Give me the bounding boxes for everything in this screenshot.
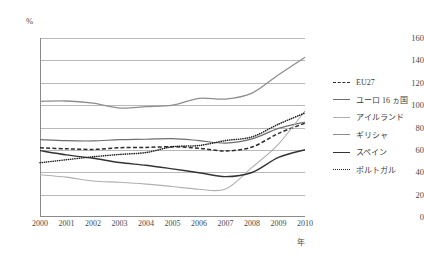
legend-item[interactable]: ポルトガル xyxy=(333,162,423,180)
series-line xyxy=(40,122,305,143)
legend-label: ユーロ 16 ヵ国 xyxy=(356,96,408,105)
legend-item[interactable]: アイルランド xyxy=(333,109,423,127)
legend-label: アイルランド xyxy=(356,113,404,122)
legend-swatch-icon xyxy=(333,113,350,123)
legend-item[interactable]: ユーロ 16 ヵ国 xyxy=(333,92,423,110)
legend-label: ギリシャ xyxy=(356,131,388,140)
legend-label: ポルトガル xyxy=(356,166,396,175)
chart-page: % 020406080100120140160 2000200120022003… xyxy=(0,0,424,259)
series-line xyxy=(40,111,305,191)
legend-item[interactable]: EU27 xyxy=(333,74,423,92)
legend-label: EU27 xyxy=(356,78,375,87)
legend-swatch-icon xyxy=(333,165,350,175)
legend-item[interactable]: スペイン xyxy=(333,144,423,162)
legend-swatch-icon xyxy=(333,78,350,88)
series-line xyxy=(40,150,305,177)
chart-legend: EU27ユーロ 16 ヵ国アイルランドギリシャスペインポルトガル xyxy=(333,74,423,179)
legend-swatch-icon xyxy=(333,95,350,105)
series-line xyxy=(40,57,305,108)
legend-swatch-icon xyxy=(333,148,350,158)
series-line xyxy=(40,113,305,163)
legend-swatch-icon xyxy=(333,130,350,140)
footnote xyxy=(8,251,308,259)
legend-item[interactable]: ギリシャ xyxy=(333,127,423,145)
legend-label: スペイン xyxy=(356,148,387,157)
